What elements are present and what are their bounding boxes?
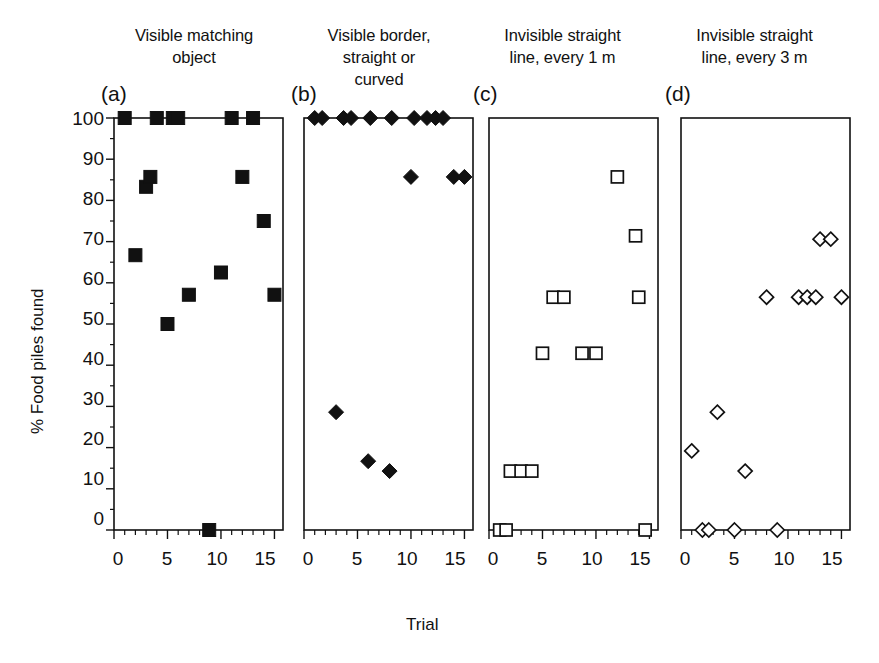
data-point-d-5: [738, 464, 752, 478]
data-markers-group: [118, 111, 848, 538]
data-point-c-2: [504, 465, 516, 477]
data-point-b-13: [436, 111, 451, 126]
panel-title-b-line1: Visible border,: [289, 24, 469, 46]
data-point-b-2: [329, 405, 344, 420]
data-point-d-6: [760, 290, 774, 304]
data-point-c-5: [536, 347, 548, 359]
data-point-d-1: [695, 523, 709, 537]
axes-group: [106, 118, 850, 539]
data-point-a-8: [182, 288, 195, 301]
x-tick-label-a-0: 0: [106, 548, 130, 570]
figure-panel-grid: Visible matching object Visible border, …: [0, 0, 879, 663]
x-tick-label-b-10: 10: [389, 548, 425, 570]
data-point-d-8: [792, 290, 806, 304]
data-point-a-4: [150, 112, 163, 125]
data-point-c-1: [500, 524, 512, 536]
data-point-b-7: [382, 464, 397, 479]
panel-title-d-line2: line, every 3 m: [662, 46, 847, 68]
data-point-a-0: [118, 112, 131, 125]
x-tick-label-a-5: 5: [155, 548, 179, 570]
data-point-d-7: [770, 523, 784, 537]
data-point-b-4: [344, 111, 359, 126]
data-point-c-12: [633, 291, 645, 303]
data-point-c-7: [558, 291, 570, 303]
panel-title-a-line1: Visible matching: [104, 24, 284, 46]
data-point-a-3: [144, 170, 157, 183]
y-tick-label-40: 40: [54, 348, 104, 370]
panel-title-a-line2: object: [104, 46, 284, 68]
data-point-a-6: [166, 112, 179, 125]
data-point-d-10: [809, 290, 823, 304]
data-point-b-5: [361, 454, 376, 469]
data-point-d-4: [727, 523, 741, 537]
x-tick-label-b-0: 0: [296, 548, 320, 570]
y-tick-label-0: 0: [54, 508, 104, 530]
plot-frame-c: [489, 118, 658, 530]
panel-title-b-line2: straight or: [289, 46, 469, 68]
data-point-a-7: [172, 112, 185, 125]
x-tick-label-c-5: 5: [530, 548, 554, 570]
data-point-b-3: [336, 111, 351, 126]
data-point-c-9: [590, 347, 602, 359]
panel-letter-d: (d): [665, 82, 691, 106]
data-point-d-12: [824, 232, 838, 246]
y-tick-label-10: 10: [54, 468, 104, 490]
panel-letter-c: (c): [473, 82, 498, 106]
data-point-b-14: [446, 169, 461, 184]
y-tick-label-100: 100: [54, 108, 104, 130]
panel-letter-a: (a): [101, 82, 127, 106]
data-point-a-11: [225, 112, 238, 125]
data-point-c-10: [611, 171, 623, 183]
plot-frame-a: [114, 118, 283, 530]
data-point-b-8: [384, 111, 399, 126]
y-tick-label-80: 80: [54, 188, 104, 210]
y-tick-label-90: 90: [54, 148, 104, 170]
data-point-b-11: [420, 111, 435, 126]
data-point-c-0: [494, 524, 506, 536]
y-tick-label-30: 30: [54, 388, 104, 410]
x-tick-label-d-0: 0: [673, 548, 697, 570]
data-point-c-3: [515, 465, 527, 477]
data-point-b-12: [428, 111, 443, 126]
y-tick-label-70: 70: [54, 228, 104, 250]
data-point-b-9: [403, 169, 418, 184]
x-tick-label-d-15: 15: [814, 548, 850, 570]
panel-title-c: Invisible straight line, every 1 m: [470, 24, 655, 68]
data-point-b-6: [363, 111, 378, 126]
panel-title-b: Visible border, straight or curved: [289, 24, 469, 90]
data-point-a-14: [257, 215, 270, 228]
x-tick-label-c-15: 15: [622, 548, 658, 570]
data-point-a-2: [140, 180, 153, 193]
data-point-d-11: [813, 232, 827, 246]
data-point-c-13: [639, 524, 651, 536]
data-point-c-11: [630, 230, 642, 242]
data-point-d-9: [800, 290, 814, 304]
plot-frame-d: [681, 118, 850, 530]
data-point-b-10: [407, 111, 422, 126]
data-point-a-15: [268, 288, 281, 301]
x-axis-label: Trial: [406, 615, 438, 635]
y-tick-label-20: 20: [54, 428, 104, 450]
data-point-a-5: [161, 318, 174, 331]
data-point-a-10: [214, 266, 227, 279]
panel-title-c-line2: line, every 1 m: [470, 46, 655, 68]
data-point-b-15: [457, 169, 472, 184]
data-point-d-0: [685, 444, 699, 458]
data-point-b-0: [307, 111, 322, 126]
data-point-a-1: [129, 249, 142, 262]
data-point-c-4: [526, 465, 538, 477]
x-tick-label-c-10: 10: [574, 548, 610, 570]
data-point-d-2: [702, 523, 716, 537]
y-tick-label-60: 60: [54, 268, 104, 290]
panel-title-d-line1: Invisible straight: [662, 24, 847, 46]
x-tick-label-d-5: 5: [722, 548, 746, 570]
data-point-a-12: [236, 170, 249, 183]
x-tick-label-b-5: 5: [345, 548, 369, 570]
y-tick-label-50: 50: [54, 308, 104, 330]
x-tick-label-a-10: 10: [199, 548, 235, 570]
panel-title-c-line1: Invisible straight: [470, 24, 655, 46]
data-point-b-1: [315, 111, 330, 126]
plot-frame-b: [304, 118, 473, 530]
data-point-a-13: [247, 112, 260, 125]
x-tick-label-d-10: 10: [766, 548, 802, 570]
